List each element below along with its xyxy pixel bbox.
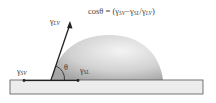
solid-substrate — [10, 80, 203, 94]
gamma-sv-label: γSV — [17, 68, 27, 77]
gamma-sl-label: γSL — [80, 67, 89, 76]
gamma-lv-label: γLV — [50, 18, 60, 27]
gamma-sv-arrowhead-icon — [23, 79, 26, 82]
theta-label: θ — [64, 64, 68, 72]
young-equation-formula: cosθ = (γSV−γSL/γLV) — [88, 7, 155, 17]
gamma-lv-arrowhead-icon — [67, 21, 73, 29]
gamma-sl-arrowhead-icon — [77, 79, 80, 82]
liquid-droplet — [52, 35, 163, 80]
